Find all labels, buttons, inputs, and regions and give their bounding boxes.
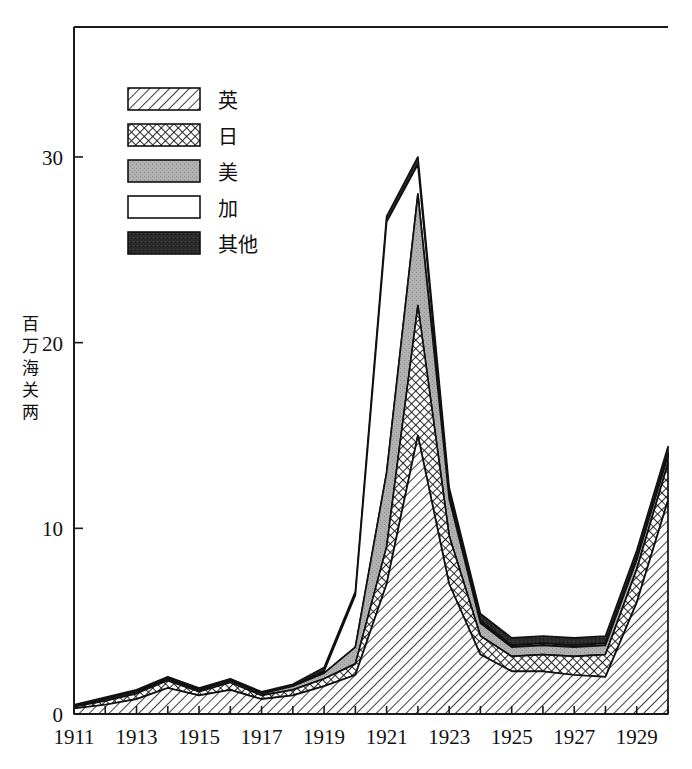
y-axis-title-char-2: 万 bbox=[22, 337, 39, 356]
x-tick-label-1927: 1927 bbox=[553, 725, 595, 749]
y-axis-title: 百万海关两 bbox=[22, 315, 39, 422]
y-tick-label-30: 30 bbox=[42, 146, 63, 170]
chart-container: 0102030 19111913191519171919192119231925… bbox=[0, 0, 692, 769]
legend-swatch-3 bbox=[128, 160, 200, 182]
x-tick-label-1919: 1919 bbox=[303, 725, 345, 749]
x-tick-label-1929: 1929 bbox=[616, 725, 658, 749]
y-tick-label-10: 10 bbox=[42, 517, 63, 541]
x-tick-label-1925: 1925 bbox=[491, 725, 533, 749]
x-tick-label-1913: 1913 bbox=[116, 725, 158, 749]
legend-label-2: 日 bbox=[218, 126, 238, 148]
y-axis-title-char-1: 百 bbox=[22, 315, 39, 334]
legend-swatch-1 bbox=[128, 88, 200, 110]
x-tick-label-1923: 1923 bbox=[428, 725, 470, 749]
y-tick-label-20: 20 bbox=[42, 332, 63, 356]
x-tick-label-1911: 1911 bbox=[53, 725, 94, 749]
legend-swatch-2 bbox=[128, 124, 200, 146]
x-tick-label-1921: 1921 bbox=[366, 725, 408, 749]
legend-swatch-4 bbox=[128, 196, 200, 218]
legend-label-3: 美 bbox=[218, 162, 238, 184]
legend-label-4: 加 bbox=[218, 198, 238, 220]
stacked-area-chart: 0102030 19111913191519171919192119231925… bbox=[0, 0, 692, 769]
y-axis-title-char-5: 两 bbox=[22, 403, 39, 422]
y-axis-title-char-3: 海 bbox=[22, 359, 39, 378]
legend-label-1: 英 bbox=[218, 90, 238, 112]
x-tick-label-1915: 1915 bbox=[178, 725, 220, 749]
x-tick-label-1917: 1917 bbox=[241, 725, 283, 749]
legend-swatch-5 bbox=[128, 232, 200, 254]
y-tick-label-0: 0 bbox=[53, 703, 64, 727]
y-axis-title-char-4: 关 bbox=[22, 381, 39, 400]
legend-label-5: 其他 bbox=[218, 234, 258, 256]
